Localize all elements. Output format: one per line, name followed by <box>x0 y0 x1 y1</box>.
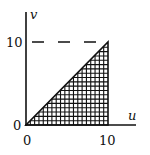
y-tick-10: 10 <box>6 35 23 50</box>
x-tick-10: 10 <box>99 133 116 148</box>
u-axis-label: u <box>128 108 136 123</box>
v-axis-label: v <box>30 7 38 22</box>
y-tick-0: 0 <box>13 118 21 133</box>
region-diagram: v u 10 0 0 10 <box>0 0 150 155</box>
x-tick-0: 0 <box>23 133 31 148</box>
